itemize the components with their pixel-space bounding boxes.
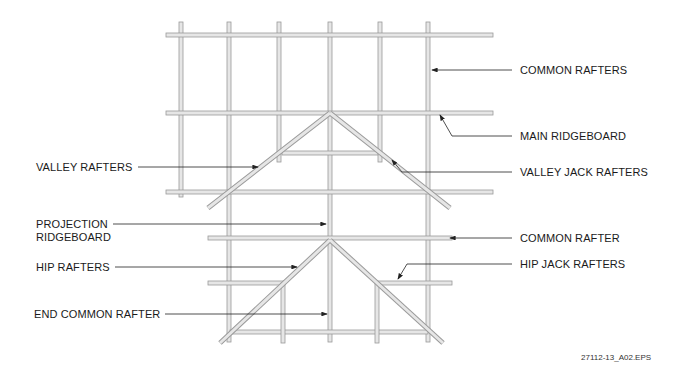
label-valley-rafters: VALLEY RAFTERS xyxy=(36,161,132,173)
projection-ridge-vertical xyxy=(328,22,332,342)
top-plate xyxy=(166,33,493,37)
hip-jack-vertical-right xyxy=(375,283,379,343)
common-rafter-2 xyxy=(227,22,231,342)
label-hip-rafters: HIP RAFTERS xyxy=(36,261,110,273)
label-projection-ridgeboard-1: PROJECTION xyxy=(36,218,108,230)
figure-id: 27112-13_A02.EPS xyxy=(581,353,651,362)
hip-jack-vertical-left xyxy=(281,283,285,343)
lower-plate xyxy=(166,190,493,194)
common-rafter-1 xyxy=(179,22,183,197)
label-valley-jack-rafters: VALLEY JACK RAFTERS xyxy=(520,166,648,178)
label-common-rafters: COMMON RAFTERS xyxy=(520,64,627,76)
label-main-ridgeboard: MAIN RIDGEBOARD xyxy=(520,130,626,142)
common-rafter-3 xyxy=(277,22,281,162)
hip-jack-left xyxy=(208,281,284,285)
common-rafter-5 xyxy=(378,22,382,162)
common-rafter-projection xyxy=(208,236,452,240)
label-projection-ridgeboard-2: RIDGEBOARD xyxy=(36,231,111,243)
valley-jack-rafter xyxy=(282,151,378,155)
label-hip-jack-rafters: HIP JACK RAFTERS xyxy=(520,258,625,270)
label-end-common-rafter: END COMMON RAFTER xyxy=(34,308,160,320)
label-common-rafter: COMMON RAFTER xyxy=(520,232,620,244)
hip-jack-right xyxy=(376,281,452,285)
bottom-plate xyxy=(230,330,428,334)
common-rafter-6 xyxy=(426,22,430,342)
